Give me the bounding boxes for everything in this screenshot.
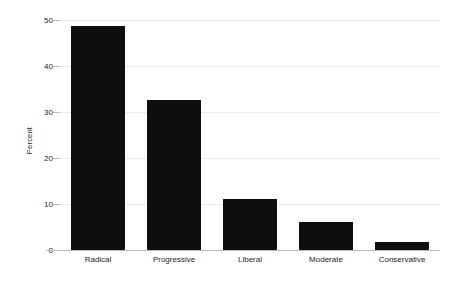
- bar-slot: [136, 20, 212, 250]
- bar-slot: [288, 20, 364, 250]
- bar-slot: [364, 20, 440, 250]
- bar-slot: [212, 20, 288, 250]
- x-tick-label: Progressive: [136, 253, 212, 267]
- bar[interactable]: [223, 199, 277, 250]
- bar[interactable]: [147, 100, 201, 250]
- bar[interactable]: [299, 222, 353, 250]
- x-tick-label: Conservative: [364, 253, 440, 267]
- x-tick-label: Liberal: [212, 253, 288, 267]
- bar-slot: [60, 20, 136, 250]
- x-tick-label: Radical: [60, 253, 136, 267]
- x-tick-label: Moderate: [288, 253, 364, 267]
- y-tick-mark: [53, 20, 60, 21]
- y-tick-mark: [53, 204, 60, 205]
- y-tick-mark: [53, 66, 60, 67]
- bar-chart: Percent 01020304050 RadicalProgressiveLi…: [0, 0, 449, 281]
- x-axis-labels: RadicalProgressiveLiberalModerateConserv…: [60, 253, 440, 271]
- y-tick-mark: [53, 112, 60, 113]
- bar[interactable]: [71, 26, 125, 250]
- bars-layer: [60, 20, 440, 251]
- y-tick-mark: [53, 158, 60, 159]
- y-axis-ticks: 01020304050: [0, 20, 60, 250]
- bar[interactable]: [375, 242, 429, 250]
